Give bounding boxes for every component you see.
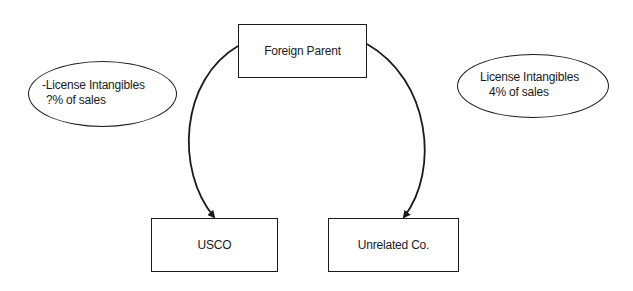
arrow-parent-to-unrelated (367, 44, 425, 217)
annotation-right-line2: 4% of sales (489, 85, 549, 100)
node-foreign-parent: Foreign Parent (238, 24, 367, 78)
node-unrelated-co: Unrelated Co. (328, 218, 459, 272)
node-usco-label: USCO (198, 238, 232, 252)
node-foreign-parent-label: Foreign Parent (264, 44, 341, 58)
node-usco: USCO (151, 218, 278, 272)
annotation-left-line1: -License Intangibles (42, 78, 145, 93)
diagram-canvas: Foreign Parent USCO Unrelated Co. -Licen… (0, 0, 633, 291)
annotation-right-oval: License Intangibles 4% of sales (457, 54, 609, 118)
node-unrelated-co-label: Unrelated Co. (358, 238, 429, 252)
annotation-left-line2: ?% of sales (46, 93, 106, 108)
annotation-right-line1: License Intangibles (480, 70, 579, 85)
arrow-parent-to-usco (189, 46, 238, 217)
annotation-left-oval: -License Intangibles ?% of sales (28, 61, 177, 127)
